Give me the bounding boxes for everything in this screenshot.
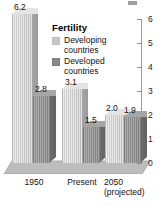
bar-front-face bbox=[62, 89, 82, 163]
x-category-sublabel: (projected) bbox=[104, 187, 162, 197]
bar-developed-2050 bbox=[124, 117, 140, 163]
bar-front-face bbox=[12, 14, 32, 163]
bar-front-face bbox=[83, 127, 100, 163]
y-tick-4 bbox=[137, 67, 142, 68]
light-swatch-icon bbox=[52, 37, 60, 45]
dark-swatch-icon bbox=[52, 58, 60, 66]
legend-label-line1: Developing bbox=[64, 35, 107, 45]
bar-developing-2050 bbox=[105, 115, 123, 163]
y-tick-6 bbox=[137, 19, 142, 20]
x-category-main: 2050 bbox=[104, 177, 123, 187]
bar-value-6-2: 6.2 bbox=[14, 3, 26, 12]
x-category-label-2050: 2050 (projected) bbox=[104, 177, 162, 197]
y-tick-5 bbox=[137, 43, 142, 44]
legend-item-label: Developed countries bbox=[64, 57, 105, 76]
chart-plot-area: 6 5 4 3 2 1 0 6.2 2.8 bbox=[0, 0, 165, 206]
legend-item-developed: Developed countries bbox=[52, 57, 107, 76]
bar-developing-1950 bbox=[12, 14, 31, 163]
y-tick-label-0: 0 bbox=[148, 159, 153, 167]
x-category-label-1950: 1950 bbox=[12, 177, 56, 187]
bar-value-2-0: 2.0 bbox=[106, 104, 118, 113]
legend-label-line2: countries bbox=[64, 45, 99, 55]
top-edge-artifact bbox=[128, 1, 137, 5]
y-tick-3 bbox=[137, 91, 142, 92]
bar-value-2-8: 2.8 bbox=[35, 85, 47, 94]
legend-label-line1: Developed bbox=[64, 56, 105, 66]
legend-item-label: Developing countries bbox=[64, 36, 107, 55]
legend-title: Fertility bbox=[52, 22, 107, 33]
bar-side-face bbox=[49, 96, 56, 163]
bar-side-face bbox=[140, 117, 147, 163]
bar-value-1-9: 1.9 bbox=[124, 106, 136, 115]
bar-front-face bbox=[33, 96, 50, 163]
bar-front-face bbox=[105, 115, 124, 163]
fertility-bar-chart: 6 5 4 3 2 1 0 6.2 2.8 bbox=[0, 0, 165, 206]
bar-developed-present bbox=[83, 127, 99, 163]
bar-front-face bbox=[124, 117, 141, 163]
y-tick-label-3: 3 bbox=[148, 87, 153, 95]
y-tick-label-1: 1 bbox=[148, 135, 153, 143]
x-category-main: 1950 bbox=[25, 177, 44, 187]
y-tick-label-5: 5 bbox=[148, 39, 153, 47]
y-tick-label-6: 6 bbox=[148, 15, 153, 23]
bar-developed-1950 bbox=[33, 96, 49, 163]
legend-item-developing: Developing countries bbox=[52, 36, 107, 55]
legend-label-line2: countries bbox=[64, 66, 99, 76]
bar-value-1-5: 1.5 bbox=[85, 116, 97, 125]
y-tick-0 bbox=[137, 163, 142, 164]
bar-value-3-1: 3.1 bbox=[65, 78, 77, 87]
chart-legend: Fertility Developing countries Developed… bbox=[52, 22, 107, 78]
bar-developing-present bbox=[62, 89, 81, 163]
x-category-label-present: Present bbox=[58, 177, 106, 187]
y-tick-label-2: 2 bbox=[148, 111, 153, 119]
y-tick-label-4: 4 bbox=[148, 63, 153, 71]
x-category-main: Present bbox=[67, 177, 96, 187]
